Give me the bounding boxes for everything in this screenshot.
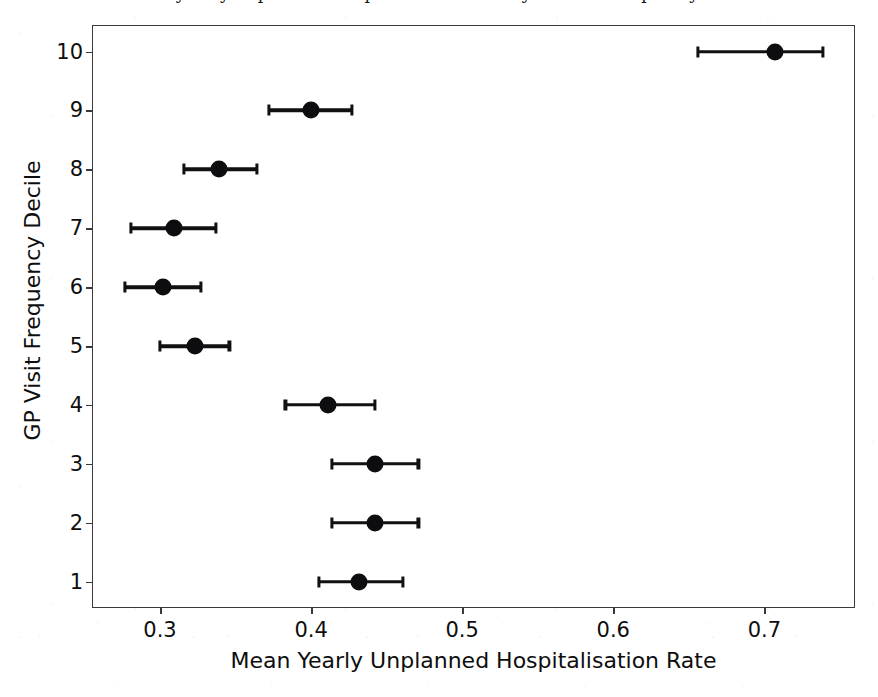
ci-cap-upper — [228, 340, 231, 351]
y-tick-label: 8 — [70, 157, 83, 181]
ci-cap-lower — [331, 517, 334, 528]
y-tick-label: 5 — [70, 334, 83, 358]
y-tick-mark — [86, 464, 92, 466]
x-axis-label: Mean Yearly Unplanned Hospitalisation Ra… — [92, 648, 855, 673]
y-tick-label: 7 — [70, 216, 83, 240]
y-tick-label: 10 — [56, 40, 83, 64]
y-tick-label: 3 — [70, 452, 83, 476]
data-point-marker — [366, 455, 383, 472]
y-tick-label: 4 — [70, 393, 83, 417]
ci-cap-lower — [267, 105, 270, 116]
data-point-marker — [351, 573, 368, 590]
ci-cap-lower — [124, 282, 127, 293]
y-tick-mark — [86, 110, 92, 112]
ci-cap-upper — [402, 576, 405, 587]
y-tick-mark — [86, 287, 92, 289]
chart-title-cropped: Mean yearly unplanned hospitalisation ra… — [0, 0, 878, 14]
plot-area: 12345678910 0.30.40.50.60.7 — [92, 25, 855, 608]
ci-cap-lower — [158, 340, 161, 351]
data-point-marker — [165, 220, 182, 237]
ci-cap-lower — [130, 223, 133, 234]
ci-cap-lower — [696, 46, 699, 57]
y-tick-label: 9 — [70, 98, 83, 122]
data-point-marker — [210, 161, 227, 178]
y-tick-mark — [86, 582, 92, 584]
ci-cap-upper — [214, 223, 217, 234]
ci-cap-lower — [331, 458, 334, 469]
x-tick-mark — [160, 608, 162, 614]
ci-cap-upper — [373, 399, 376, 410]
y-axis-label: GP Visit Frequency Decile — [20, 151, 45, 451]
x-tick-label: 0.6 — [597, 618, 630, 642]
ci-cap-upper — [255, 164, 258, 175]
x-tick-label: 0.5 — [445, 618, 478, 642]
x-tick-mark — [311, 608, 313, 614]
ci-cap-upper — [822, 46, 825, 57]
y-tick-label: 1 — [70, 570, 83, 594]
data-point-marker — [319, 396, 336, 413]
y-tick-mark — [86, 228, 92, 230]
ci-cap-upper — [417, 517, 420, 528]
data-point-marker — [155, 279, 172, 296]
x-tick-mark — [764, 608, 766, 614]
ci-cap-upper — [350, 105, 353, 116]
data-point-marker — [366, 514, 383, 531]
x-tick-label: 0.4 — [294, 618, 327, 642]
data-point-marker — [303, 102, 320, 119]
y-tick-mark — [86, 169, 92, 171]
x-tick-mark — [613, 608, 615, 614]
y-tick-label: 6 — [70, 275, 83, 299]
x-tick-label: 0.3 — [143, 618, 176, 642]
ci-cap-lower — [183, 164, 186, 175]
y-tick-mark — [86, 405, 92, 407]
y-tick-mark — [86, 346, 92, 348]
data-point-marker — [766, 43, 783, 60]
chart-figure: Mean yearly unplanned hospitalisation ra… — [0, 0, 878, 697]
ci-cap-upper — [417, 458, 420, 469]
chart-title-text: Mean yearly unplanned hospitalisation ra… — [0, 0, 878, 3]
data-point-marker — [186, 337, 203, 354]
ci-cap-lower — [317, 576, 320, 587]
confidence-interval-bar — [698, 50, 823, 54]
y-tick-mark — [86, 52, 92, 54]
ci-cap-lower — [284, 399, 287, 410]
y-tick-mark — [86, 523, 92, 525]
x-tick-label: 0.7 — [748, 618, 781, 642]
x-tick-mark — [462, 608, 464, 614]
ci-cap-upper — [199, 282, 202, 293]
y-tick-label: 2 — [70, 511, 83, 535]
